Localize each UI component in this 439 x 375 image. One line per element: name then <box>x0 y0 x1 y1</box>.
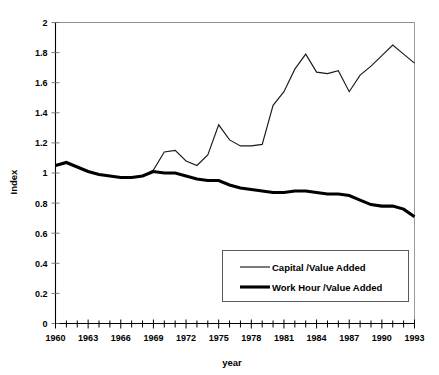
x-tick-label: 1966 <box>111 333 131 343</box>
x-tick-label: 1981 <box>274 333 294 343</box>
x-tick-label: 1969 <box>143 333 163 343</box>
x-tick-label: 1990 <box>372 333 392 343</box>
x-tick-label: 1978 <box>241 333 261 343</box>
x-tick-label: 1972 <box>176 333 196 343</box>
y-tick-label: 0 <box>42 319 47 329</box>
y-tick-label: 0.4 <box>35 259 48 269</box>
x-tick-label: 1993 <box>404 333 424 343</box>
y-tick-label: 1.8 <box>35 48 48 58</box>
series-line-capital <box>56 45 415 177</box>
legend-label-capital: Capital /Value Added <box>272 262 366 273</box>
chart-figure: 00.20.40.60.811.21.41.61.82 196019631966… <box>0 0 439 375</box>
x-tick-label: 1984 <box>307 333 327 343</box>
x-tick-label: 1987 <box>339 333 359 343</box>
x-axis-tick-labels: 1960196319661969197219751978198119841987… <box>45 333 424 343</box>
x-tick-label: 1975 <box>209 333 229 343</box>
x-axis-title: year <box>222 357 242 368</box>
y-axis-title: Index <box>8 169 19 195</box>
series-line-workhour <box>56 162 415 216</box>
data-series-group <box>56 45 415 217</box>
y-tick-label: 0.6 <box>35 229 48 239</box>
y-axis-tick-labels: 00.20.40.60.811.21.41.61.82 <box>35 18 48 329</box>
y-tick-label: 1.4 <box>35 108 48 118</box>
y-tick-label: 1 <box>42 168 47 178</box>
legend-box <box>223 251 409 302</box>
y-tick-label: 2 <box>42 18 47 28</box>
x-tick-label: 1960 <box>45 333 65 343</box>
y-tick-label: 1.6 <box>35 78 48 88</box>
y-tick-label: 0.2 <box>35 289 48 299</box>
chart-legend: Capital /Value Added Work Hour /Value Ad… <box>223 251 409 302</box>
legend-label-workhour: Work Hour /Value Added <box>272 282 383 293</box>
line-chart: 00.20.40.60.811.21.41.61.82 196019631966… <box>0 0 439 375</box>
y-tick-label: 0.8 <box>35 199 48 209</box>
x-tick-label: 1963 <box>78 333 98 343</box>
y-tick-label: 1.2 <box>35 138 48 148</box>
